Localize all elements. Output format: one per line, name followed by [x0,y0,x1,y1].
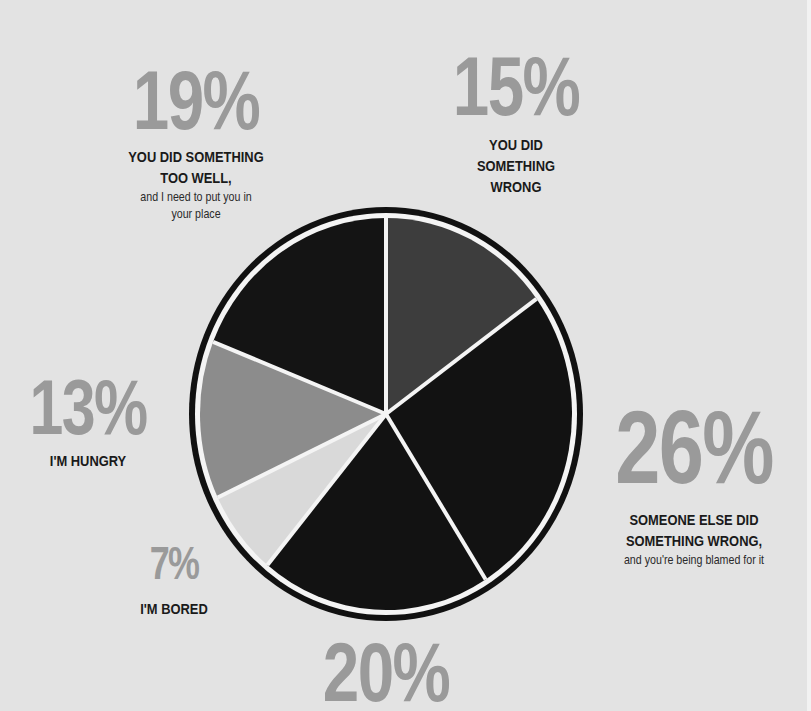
label-hungry: 13% I'M HUNGRY [13,368,163,471]
pie-slices [200,218,572,610]
sub-blamed: and you're being blamed for it [611,551,777,568]
head-hungry: I'M HUNGRY [23,450,152,471]
pct-did-wrong: 15% [453,44,579,128]
pct-bored: 7% [143,540,204,586]
pct-too-well: 19% [133,58,259,142]
head-too-well-2: TOO WELL, [126,167,265,188]
label-too-well: 19% YOU DID SOMETHING TOO WELL, and I ne… [115,58,277,222]
label-blamed: 26% SOMEONE ELSE DID SOMETHING WRONG, an… [593,395,795,568]
pct-hungry: 13% [29,368,146,446]
sub-too-well-1: and I need to put you in [130,188,263,205]
head-blamed-1: SOMEONE ELSE DID [607,509,781,530]
pct-blamed: 26% [615,395,773,499]
head-did-wrong-1: YOU DID [446,134,585,155]
head-did-wrong-3: WRONG [446,176,585,197]
label-twenty: 20% [305,630,467,711]
label-bored: 7% I'M BORED [135,540,214,619]
head-bored: I'M BORED [140,598,208,619]
sub-too-well-2: your place [130,205,263,222]
label-did-wrong: 15% YOU DID SOMETHING WRONG [435,44,597,197]
pct-twenty: 20% [323,630,449,711]
head-too-well-1: YOU DID SOMETHING [126,146,265,167]
head-did-wrong-2: SOMETHING [446,155,585,176]
head-blamed-2: SOMETHING WRONG, [607,530,781,551]
